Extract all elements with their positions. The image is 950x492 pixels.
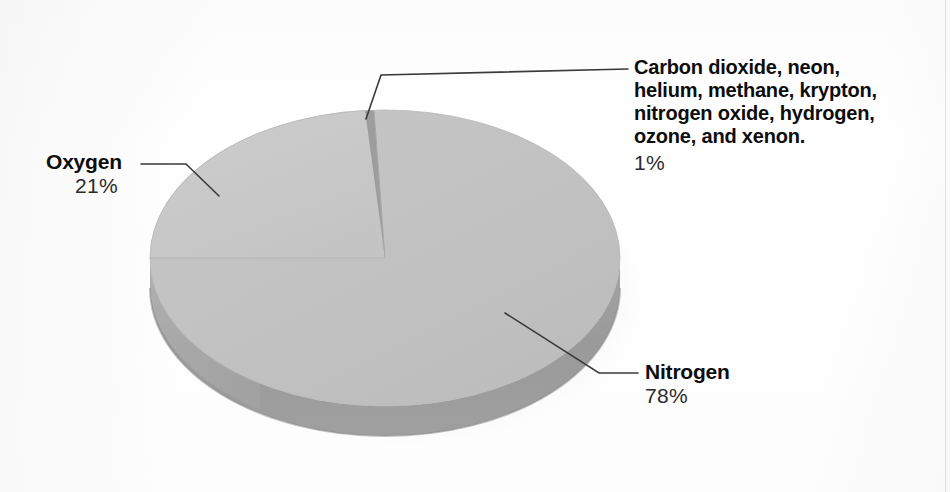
pie-top-face — [150, 110, 620, 406]
label-trace-gases: Carbon dioxide, neon, helium, methane, k… — [634, 56, 934, 175]
label-oxygen-name: Oxygen — [46, 150, 122, 173]
pie-chart-figure: Oxygen 21% Carbon dioxide, neon, helium,… — [0, 0, 950, 492]
label-trace-gases-percent: 1% — [634, 150, 934, 175]
label-oxygen: Oxygen 21% — [46, 150, 122, 198]
label-trace-gases-name: Carbon dioxide, neon, helium, methane, k… — [634, 56, 934, 148]
pie-slice-oxygen[interactable] — [150, 110, 385, 258]
label-oxygen-percent: 21% — [46, 173, 122, 198]
label-nitrogen: Nitrogen 78% — [645, 360, 730, 408]
label-nitrogen-percent: 78% — [645, 383, 730, 408]
label-nitrogen-name: Nitrogen — [645, 360, 730, 383]
